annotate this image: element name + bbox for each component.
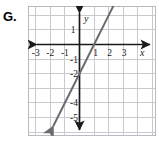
x-tick-label-1: 1: [93, 48, 98, 58]
y-tick-label-neg4: -4: [70, 98, 78, 108]
plot-background: [28, 6, 156, 136]
x-tick-label-neg3: -3: [32, 48, 40, 58]
x-axis-label: x: [139, 47, 145, 58]
y-axis-label: y: [83, 13, 89, 24]
y-tick-label-neg2: -2: [70, 69, 78, 79]
y-tick-label-neg1: -1: [70, 55, 78, 65]
x-tick-label-2: 2: [107, 48, 112, 58]
graph-figure: G.: [0, 0, 159, 141]
answer-choice-label: G.: [3, 10, 17, 23]
x-tick-label-neg2: -2: [46, 48, 54, 58]
y-tick-label-neg5: -5: [70, 113, 78, 123]
coordinate-plane-svg: -3 -2 -1 1 2 3 1 -1 -2 -4 -5 y x: [28, 6, 156, 136]
coordinate-plane: -3 -2 -1 1 2 3 1 -1 -2 -4 -5 y x: [28, 6, 156, 136]
x-tick-label-neg1: -1: [61, 48, 69, 58]
x-tick-label-3: 3: [122, 48, 127, 58]
y-tick-label-1: 1: [71, 25, 76, 35]
